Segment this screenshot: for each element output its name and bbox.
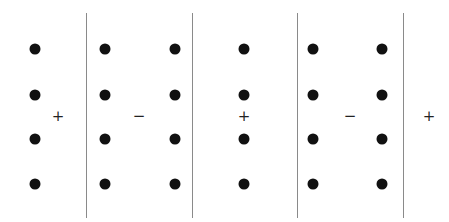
charge-dot (239, 44, 250, 55)
charge-dot (100, 90, 111, 101)
plus-sign: + (423, 109, 436, 124)
boundary-line (192, 13, 193, 218)
charge-dot (100, 179, 111, 190)
charge-dot (170, 134, 181, 145)
charge-dot (377, 134, 388, 145)
charge-dot (308, 134, 319, 145)
charge-dot (30, 134, 41, 145)
charge-dot (239, 179, 250, 190)
charge-dot (377, 179, 388, 190)
charge-dot (308, 90, 319, 101)
boundary-line (86, 13, 87, 218)
charge-dot (170, 179, 181, 190)
charge-dot (100, 44, 111, 55)
charge-dot (377, 90, 388, 101)
minus-sign: − (344, 109, 357, 124)
minus-sign: − (133, 109, 146, 124)
charge-dot (100, 134, 111, 145)
charge-dot (239, 134, 250, 145)
charge-dot (308, 179, 319, 190)
charge-dot (30, 44, 41, 55)
charge-dot (30, 179, 41, 190)
charge-dot (308, 44, 319, 55)
charge-dot (30, 90, 41, 101)
charge-dot (170, 44, 181, 55)
plus-sign: + (52, 109, 65, 124)
plus-sign: + (238, 109, 251, 124)
charge-dot (170, 90, 181, 101)
boundary-line (403, 13, 404, 218)
boundary-line (297, 13, 298, 218)
charge-dot (239, 90, 250, 101)
charge-dot (377, 44, 388, 55)
